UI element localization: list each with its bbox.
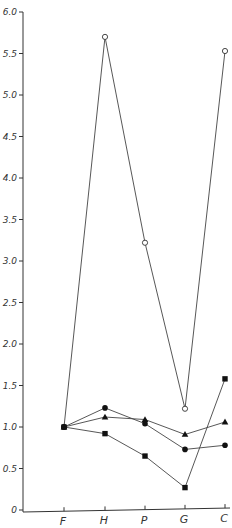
y-tick-label: 5.0 — [3, 90, 18, 100]
filled-circle-marker-icon — [182, 447, 188, 453]
x-axis-line — [23, 508, 230, 512]
x-tick-label: C — [220, 512, 228, 525]
filled-square-marker-icon — [182, 485, 187, 490]
x-tick-label: G — [180, 513, 189, 526]
filled-square-marker-icon — [142, 453, 147, 458]
open-circle-marker-icon — [222, 48, 227, 53]
y-tick-label: 2.0 — [3, 339, 18, 349]
filled-circle-marker-icon — [222, 442, 228, 448]
series-line-filled-square — [64, 379, 225, 488]
filled-circle-marker-icon — [102, 405, 108, 411]
filled-square-marker-icon — [61, 424, 66, 429]
line-chart: 00.51.01.52.02.53.03.54.04.55.05.56.0 FH… — [0, 0, 232, 528]
series-line-filled-circle — [64, 408, 225, 450]
x-tick-label: F — [60, 515, 67, 528]
series-group — [61, 34, 229, 490]
filled-triangle-marker-icon — [102, 414, 109, 420]
filled-square-marker-icon — [102, 431, 107, 436]
filled-square-marker-icon — [222, 376, 227, 381]
y-tick-label: 3.5 — [3, 215, 18, 225]
open-circle-marker-icon — [182, 406, 187, 411]
y-tick-label: 1.0 — [3, 422, 18, 432]
x-tick-label: H — [100, 514, 108, 527]
y-tick-label: 5.5 — [3, 49, 18, 59]
x-tick-label: P — [141, 514, 148, 527]
y-tick-label: 4.5 — [3, 132, 18, 142]
y-tick-label: 6.0 — [3, 7, 18, 17]
y-axis: 00.51.01.52.02.53.03.54.04.55.05.56.0 — [3, 7, 23, 515]
y-tick-label: 0 — [11, 505, 17, 515]
x-axis: FHPGC — [23, 504, 230, 528]
y-tick-label: 4.0 — [3, 173, 18, 183]
y-tick-label: 1.5 — [3, 381, 18, 391]
filled-triangle-marker-icon — [222, 419, 229, 425]
y-tick-label: 0.5 — [3, 464, 18, 474]
y-tick-label: 2.5 — [3, 298, 18, 308]
series-line-open-circle — [64, 37, 225, 427]
open-circle-marker-icon — [142, 240, 147, 245]
open-circle-marker-icon — [102, 34, 107, 39]
y-tick-label: 3.0 — [3, 256, 18, 266]
